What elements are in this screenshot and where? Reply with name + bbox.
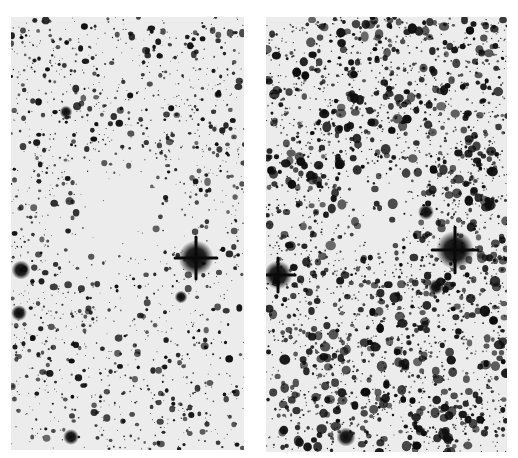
star-field-panel-right — [266, 17, 507, 452]
star-field-left-image — [11, 17, 244, 450]
star-field-panel-left — [11, 17, 244, 450]
star-field-right-image — [266, 17, 507, 452]
